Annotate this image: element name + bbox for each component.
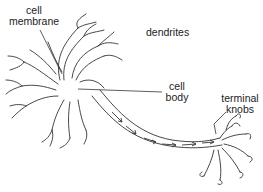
label-terminal-knobs-line2: knobs: [218, 104, 262, 115]
leader-terminal-knobs: [214, 112, 226, 134]
label-cell-body-line2: body: [162, 92, 192, 103]
neuron-diagram: cell membrane dendrites cell body termin…: [0, 0, 263, 192]
dendrites-and-soma: [6, 14, 122, 148]
label-cell-body: cell body: [162, 81, 192, 103]
leader-lines: [40, 30, 226, 134]
terminal-knobs: [200, 114, 252, 185]
leader-cell-body: [78, 89, 162, 92]
axon: [92, 90, 222, 148]
label-dendrites: dendrites: [146, 27, 189, 38]
label-cell-membrane-line2: membrane: [8, 16, 60, 27]
label-terminal-knobs: terminal knobs: [218, 93, 262, 115]
label-cell-membrane: cell membrane: [8, 5, 60, 27]
